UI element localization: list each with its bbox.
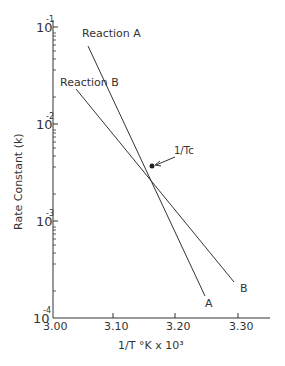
intersection-label: 1/Tc (174, 145, 194, 156)
intersection-point (150, 164, 155, 169)
svg-text:3.00: 3.00 (43, 320, 68, 333)
x-tick-labels: 3.00 3.10 3.20 3.30 (43, 320, 254, 333)
svg-text:-4: -4 (43, 306, 51, 315)
reaction-b-label: Reaction B (60, 76, 119, 89)
svg-text:-1: -1 (46, 15, 54, 24)
svg-text:-3: -3 (46, 209, 54, 218)
y-axis-label: Rate Constant (k) (12, 133, 25, 230)
chart: 10 -1 10 -2 10 -3 10 -4 3.00 3.10 3.20 3… (0, 0, 285, 366)
y-major-ticks (53, 27, 58, 221)
end-label-a: A (205, 297, 213, 310)
end-label-b: B (240, 282, 248, 295)
svg-text:3.20: 3.20 (166, 320, 191, 333)
intersection-arrow (156, 157, 175, 165)
reaction-b-line (76, 89, 234, 282)
x-ticks (113, 313, 238, 318)
svg-text:3.10: 3.10 (104, 320, 129, 333)
svg-text:3.30: 3.30 (229, 320, 254, 333)
svg-text:-2: -2 (46, 112, 54, 121)
reaction-a-label: Reaction A (82, 27, 141, 40)
y-tick-labels: 10 -1 10 -2 10 -3 10 -4 (33, 15, 54, 326)
x-axis-label: 1/T °K x 10³ (118, 339, 184, 352)
